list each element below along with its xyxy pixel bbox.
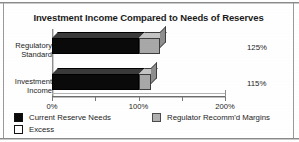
bar-segment[interactable] (52, 38, 139, 54)
x-axis-tick-label: 0% (47, 102, 58, 111)
chart-title: Investment Income Compared to Needs of R… (4, 12, 293, 23)
legend-label: Excess (29, 125, 54, 134)
category-label-line: Income (0, 87, 52, 96)
bar-segment[interactable] (139, 74, 152, 90)
data-label-regulatory-standard: 125% (247, 43, 267, 52)
plot-area: Investment Income Compared to Needs of R… (4, 5, 293, 137)
bar-segment-side-face (160, 26, 166, 48)
chart-legend: Current Reserve Needs Excess Regulator R… (4, 113, 293, 137)
frame-border-bottom-shadow (0, 139, 299, 140)
legend-label: Regulator Recomm'd Margins (167, 113, 270, 122)
gray-swatch-icon (152, 113, 161, 122)
x-axis-upper-rule (52, 93, 226, 94)
x-axis-tick (95, 97, 96, 101)
bar-segment-top-face (52, 32, 145, 38)
category-label-investment-income: Investment Income (0, 78, 52, 95)
white-swatch-icon (14, 125, 23, 134)
legend-item-excess: Excess (14, 125, 54, 134)
legend-label: Current Reserve Needs (29, 113, 111, 122)
frame-border-right (293, 3, 294, 139)
category-label-line: Standard (0, 51, 52, 60)
frame-border-top-shadow (0, 3, 299, 4)
legend-item-regulator-recommended-margins: Regulator Recomm'd Margins (152, 113, 270, 122)
x-axis-tick-label: 200% (215, 102, 234, 111)
legend-item-current-reserve-needs: Current Reserve Needs (14, 113, 111, 122)
bar-segment-side-face (151, 62, 157, 84)
bar-segment-top-face (52, 68, 145, 74)
data-label-investment-income: 115% (247, 79, 266, 88)
x-axis-tick (182, 97, 183, 101)
x-axis-tick (52, 97, 53, 101)
x-axis-tick (139, 97, 140, 101)
bar-segment[interactable] (52, 74, 139, 90)
black-swatch-icon (14, 113, 23, 122)
category-label-regulatory-standard: Regulatory Standard (0, 42, 52, 59)
chart-frame: Investment Income Compared to Needs of R… (0, 0, 299, 142)
bar-segment[interactable] (139, 38, 161, 54)
x-axis-tick (225, 97, 226, 101)
x-axis-tick-label: 100% (129, 102, 148, 111)
x-axis-end-cap (225, 90, 226, 97)
